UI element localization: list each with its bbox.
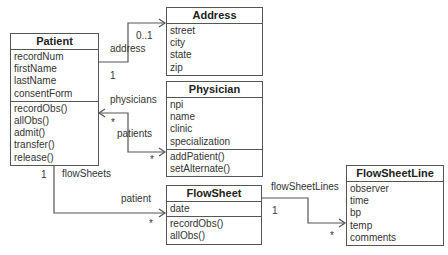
attribute: temp: [350, 220, 440, 232]
mult-address-source: 1: [110, 70, 116, 82]
operations-section: recordObs() allObs(): [167, 216, 261, 243]
class-name: Patient: [11, 34, 98, 50]
attributes-section: npi name clinic specialization: [167, 98, 262, 149]
attribute: comments: [350, 232, 440, 244]
operations-section: recordObs() allObs() admit() transfer() …: [11, 101, 98, 165]
operation: addPatient(): [170, 151, 259, 163]
attribute: observer: [350, 183, 440, 195]
attribute: npi: [170, 99, 259, 111]
operation: allObs(): [170, 230, 258, 242]
class-name: FlowSheet: [167, 186, 261, 202]
mult-flowsheet-side: *: [149, 218, 153, 230]
operation: recordObs(): [14, 103, 95, 115]
attribute: zip: [170, 62, 259, 74]
class-name: Physician: [167, 82, 262, 98]
operation: admit(): [14, 127, 95, 139]
attribute: name: [170, 111, 259, 123]
mult-address-target: 0..1: [136, 30, 153, 42]
attributes-section: recordNum firstName lastName consentForm: [11, 50, 98, 101]
attribute: consentForm: [14, 88, 95, 100]
class-patient[interactable]: Patient recordNum firstName lastName con…: [10, 33, 99, 166]
role-address: address: [110, 43, 146, 55]
attributes-section: street city state zip: [167, 24, 262, 75]
class-name: FlowSheetLine: [347, 166, 443, 182]
class-flowsheet[interactable]: FlowSheet date recordObs() allObs(): [166, 185, 262, 245]
mult-flowsheet-patient-side: 1: [41, 169, 47, 181]
mult-physician-patient-side: *: [111, 117, 115, 129]
attribute: specialization: [170, 136, 259, 148]
attribute: bp: [350, 207, 440, 219]
class-physician[interactable]: Physician npi name clinic specialization…: [166, 81, 263, 177]
mult-physician-physician-side: *: [150, 154, 154, 166]
class-address[interactable]: Address street city state zip: [166, 7, 263, 76]
attribute: clinic: [170, 123, 259, 135]
operation: allObs(): [14, 115, 95, 127]
operation: transfer(): [14, 139, 95, 151]
attributes-section: date: [167, 202, 261, 216]
attribute: lastName: [14, 75, 95, 87]
attribute: time: [350, 195, 440, 207]
mult-flowsheetline-target: *: [330, 230, 334, 242]
operation: release(): [14, 152, 95, 164]
attribute: city: [170, 37, 259, 49]
operations-section: addPatient() setAlternate(): [167, 149, 262, 176]
attribute: recordNum: [14, 51, 95, 63]
operation: setAlternate(): [170, 163, 259, 175]
attribute: date: [170, 203, 258, 215]
attributes-section: observer time bp temp comments: [347, 182, 443, 245]
role-physicians: physicians: [110, 94, 157, 106]
attribute: state: [170, 49, 259, 61]
role-patient: patient: [121, 193, 151, 205]
role-flowsheets: flowSheets: [62, 168, 111, 180]
class-name: Address: [167, 8, 262, 24]
class-flowsheetline[interactable]: FlowSheetLine observer time bp temp comm…: [346, 165, 444, 246]
operation: recordObs(): [170, 218, 258, 230]
attribute: street: [170, 25, 259, 37]
mult-flowsheetline-source: 1: [272, 205, 278, 217]
role-patients: patients: [117, 128, 152, 140]
role-flowsheetlines: flowSheetLines: [271, 181, 339, 193]
attribute: firstName: [14, 63, 95, 75]
